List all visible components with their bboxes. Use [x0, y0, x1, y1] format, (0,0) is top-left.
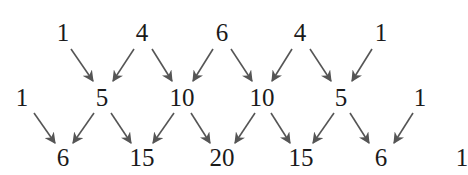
triangle-entry-row-5-5: 1 — [414, 85, 427, 110]
triangle-entry-row-4-4: 1 — [375, 20, 388, 45]
arrow-icon — [34, 113, 55, 143]
triangle-entry-row-5-1: 5 — [96, 85, 109, 110]
triangle-entry-row-6-3: 15 — [289, 145, 314, 170]
triangle-entry-row-6-5: 1 — [456, 145, 468, 170]
arrow-icon — [153, 113, 174, 143]
arrow-icon — [394, 113, 413, 143]
arrow-icon — [111, 113, 131, 143]
arrow-icon — [272, 49, 292, 81]
arrow-icon — [235, 113, 255, 143]
arrow-icon — [152, 49, 172, 81]
arrow-icon — [350, 113, 369, 143]
triangle-entry-row-4-1: 4 — [136, 20, 149, 45]
triangle-entry-row-5-0: 1 — [16, 85, 29, 110]
arrow-icon — [310, 49, 331, 81]
arrow-icon — [352, 49, 372, 81]
triangle-entry-row-6-2: 20 — [210, 145, 235, 170]
arrow-icon — [193, 49, 213, 81]
arrow-icon — [113, 49, 134, 81]
arrow-icon — [73, 113, 94, 143]
triangle-entry-row-6-4: 6 — [375, 145, 388, 170]
arrow-icon — [71, 49, 93, 81]
triangle-entry-row-5-2: 10 — [170, 85, 195, 110]
arrow-icon — [271, 113, 290, 143]
triangle-entry-row-6-1: 15 — [130, 145, 155, 170]
arrow-icon — [313, 113, 334, 143]
triangle-entry-row-5-3: 10 — [250, 85, 275, 110]
arrow-icon — [191, 113, 210, 143]
triangle-entry-row-4-3: 4 — [294, 20, 307, 45]
triangle-entry-row-4-2: 6 — [216, 20, 229, 45]
triangle-entry-row-6-0: 6 — [57, 145, 70, 170]
arrow-group — [34, 49, 413, 143]
arrow-icon — [231, 49, 252, 81]
triangle-entry-row-4-0: 1 — [57, 20, 70, 45]
triangle-entry-row-5-4: 5 — [335, 85, 348, 110]
